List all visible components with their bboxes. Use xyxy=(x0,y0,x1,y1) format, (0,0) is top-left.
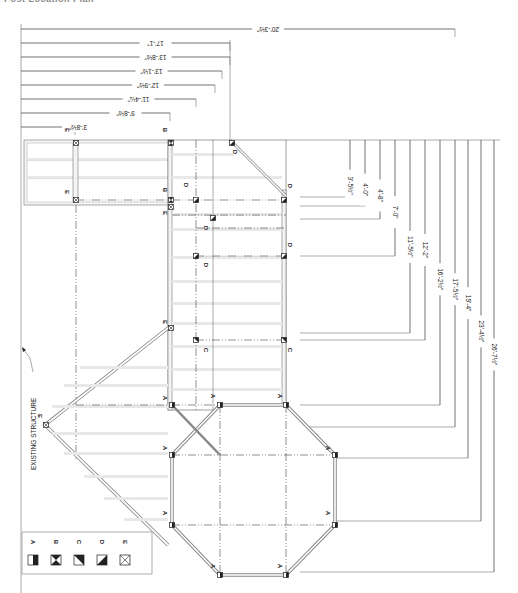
top-dimension-label: 13'-1½" xyxy=(140,68,163,75)
post-a-icon xyxy=(218,403,223,408)
post-tag-a: A xyxy=(277,394,283,399)
post-d-icon xyxy=(211,216,216,221)
post-tag-d: D xyxy=(287,184,293,189)
post-e-icon xyxy=(169,326,174,331)
post-tag-d: D xyxy=(203,263,209,268)
post-tag-b: B xyxy=(162,188,168,193)
post-tag-a: A xyxy=(162,511,168,516)
right-dimension-label: 3'-5½" xyxy=(347,176,354,195)
post-d-icon xyxy=(230,141,235,146)
right-dimension-label: 12'-2" xyxy=(422,242,429,259)
post-tag-d: D xyxy=(203,226,209,231)
post-a-icon xyxy=(170,453,175,458)
post-e-icon xyxy=(74,198,79,203)
post-d-icon xyxy=(194,254,199,259)
legend-label-a: A xyxy=(30,540,36,545)
top-dimension: 11'-4¼" xyxy=(21,94,196,107)
post-tag-d: D xyxy=(183,183,189,188)
right-dimension-label: 4'-0" xyxy=(362,183,369,197)
right-dimension-label: 23'-4½" xyxy=(478,320,485,343)
post-e-icon xyxy=(120,555,130,565)
post-d-icon xyxy=(194,198,199,203)
post-a-icon xyxy=(170,523,175,528)
top-dimension-label: 11'-4¼" xyxy=(127,96,149,103)
post-a-icon xyxy=(333,523,338,528)
post-c-icon xyxy=(74,555,84,565)
top-dimension-label: 17'-1" xyxy=(147,40,164,47)
post-a-icon xyxy=(333,453,338,458)
left-wing-frame xyxy=(45,328,168,545)
top-dimension-label: 20'-3½" xyxy=(256,26,279,33)
post-e-icon xyxy=(169,205,174,210)
right-dimension: 16'-2½" xyxy=(300,140,445,405)
existing-structure-leader xyxy=(22,347,33,372)
right-dimension-label: 11'-5½" xyxy=(407,236,414,258)
post-d-icon xyxy=(282,254,287,259)
top-dimension: 12'-9½" xyxy=(21,80,215,93)
post-tag-a: A xyxy=(210,394,216,399)
post-c-icon xyxy=(194,338,199,343)
post-tag-e: E xyxy=(162,211,168,215)
top-dimension: 13'-8½" xyxy=(21,52,230,65)
top-dimension: 3'-8½" xyxy=(21,122,94,135)
post-tag-b: B xyxy=(162,128,168,133)
post-b-icon xyxy=(169,141,174,146)
post-tag-a: A xyxy=(325,511,331,516)
post-d-icon xyxy=(282,198,287,203)
right-dimension-label: 17'-5½" xyxy=(452,278,459,301)
right-dimension: 3'-5½" xyxy=(300,140,355,202)
post-tag-c: C xyxy=(287,348,293,353)
post-a-icon xyxy=(284,403,289,408)
post-tag-a: A xyxy=(162,446,168,451)
post-tag-e: E xyxy=(64,128,70,132)
post-e-icon xyxy=(44,423,49,428)
post-a-icon xyxy=(218,573,223,578)
post-e-icon xyxy=(74,141,79,146)
top-dimension-label: 9'-8½" xyxy=(116,110,135,117)
post-tag-a: A xyxy=(277,564,283,569)
post-tag-d: D xyxy=(232,150,238,155)
post-tag-e: E xyxy=(37,414,43,418)
top-dimension: 17'-1" xyxy=(21,38,230,51)
post-d-icon xyxy=(97,555,107,565)
top-dimension: 13'-1½" xyxy=(21,66,222,79)
post-tag-e: E xyxy=(162,320,168,324)
right-dimension: 19'-4" xyxy=(300,140,473,458)
main-deck-frame xyxy=(76,40,286,410)
top-dimension-label: 12'-9½" xyxy=(136,82,159,89)
post-a-icon xyxy=(170,403,175,408)
post-c-icon xyxy=(282,338,287,343)
top-dimension: 20'-3½" xyxy=(21,24,455,37)
post-a-icon xyxy=(28,555,38,565)
right-dimension: 4'-8" xyxy=(300,140,385,219)
post-tag-d: D xyxy=(287,243,293,248)
right-dimension-label: 26'-7½" xyxy=(491,343,498,366)
upper-deck-frame xyxy=(24,140,174,460)
top-dimension-label: 13'-8½" xyxy=(144,54,167,61)
post-tag-a: A xyxy=(210,564,216,569)
legend-label-b: B xyxy=(53,540,59,545)
right-dimension-label: 19'-4" xyxy=(465,295,472,312)
post-b-icon xyxy=(169,198,174,203)
post-tag-c: C xyxy=(203,348,209,353)
post-b-icon xyxy=(51,555,61,565)
right-dimension: 4'-0" xyxy=(300,140,370,206)
legend-label-c: C xyxy=(76,540,82,545)
post-a-icon xyxy=(284,573,289,578)
post-tag-a: A xyxy=(162,396,168,401)
existing-structure-label: EXISTING STRUCTURE xyxy=(30,397,37,470)
right-dimension: 11'-5½" xyxy=(300,140,415,333)
top-dimension-group: 20'-3½"17'-1"13'-8½"13'-1½"12'-9½"11'-4¼… xyxy=(21,24,455,135)
right-dimension-label: 7'-0" xyxy=(392,206,399,220)
top-dimension: 9'-8½" xyxy=(21,108,170,121)
legend-label-d: D xyxy=(99,540,105,545)
right-dimension-label: 4'-8" xyxy=(377,189,384,203)
post-tag-e: E xyxy=(64,190,70,194)
right-dimension-label: 16'-2½" xyxy=(437,268,444,291)
post-legend: ABCDE xyxy=(22,532,152,574)
post-location-plan-drawing: EXISTING STRUCTURE 20'-3½"17'-1"13'-8½"1… xyxy=(0,0,518,593)
legend-label-e: E xyxy=(122,540,128,544)
post-tag-a: A xyxy=(325,446,331,451)
